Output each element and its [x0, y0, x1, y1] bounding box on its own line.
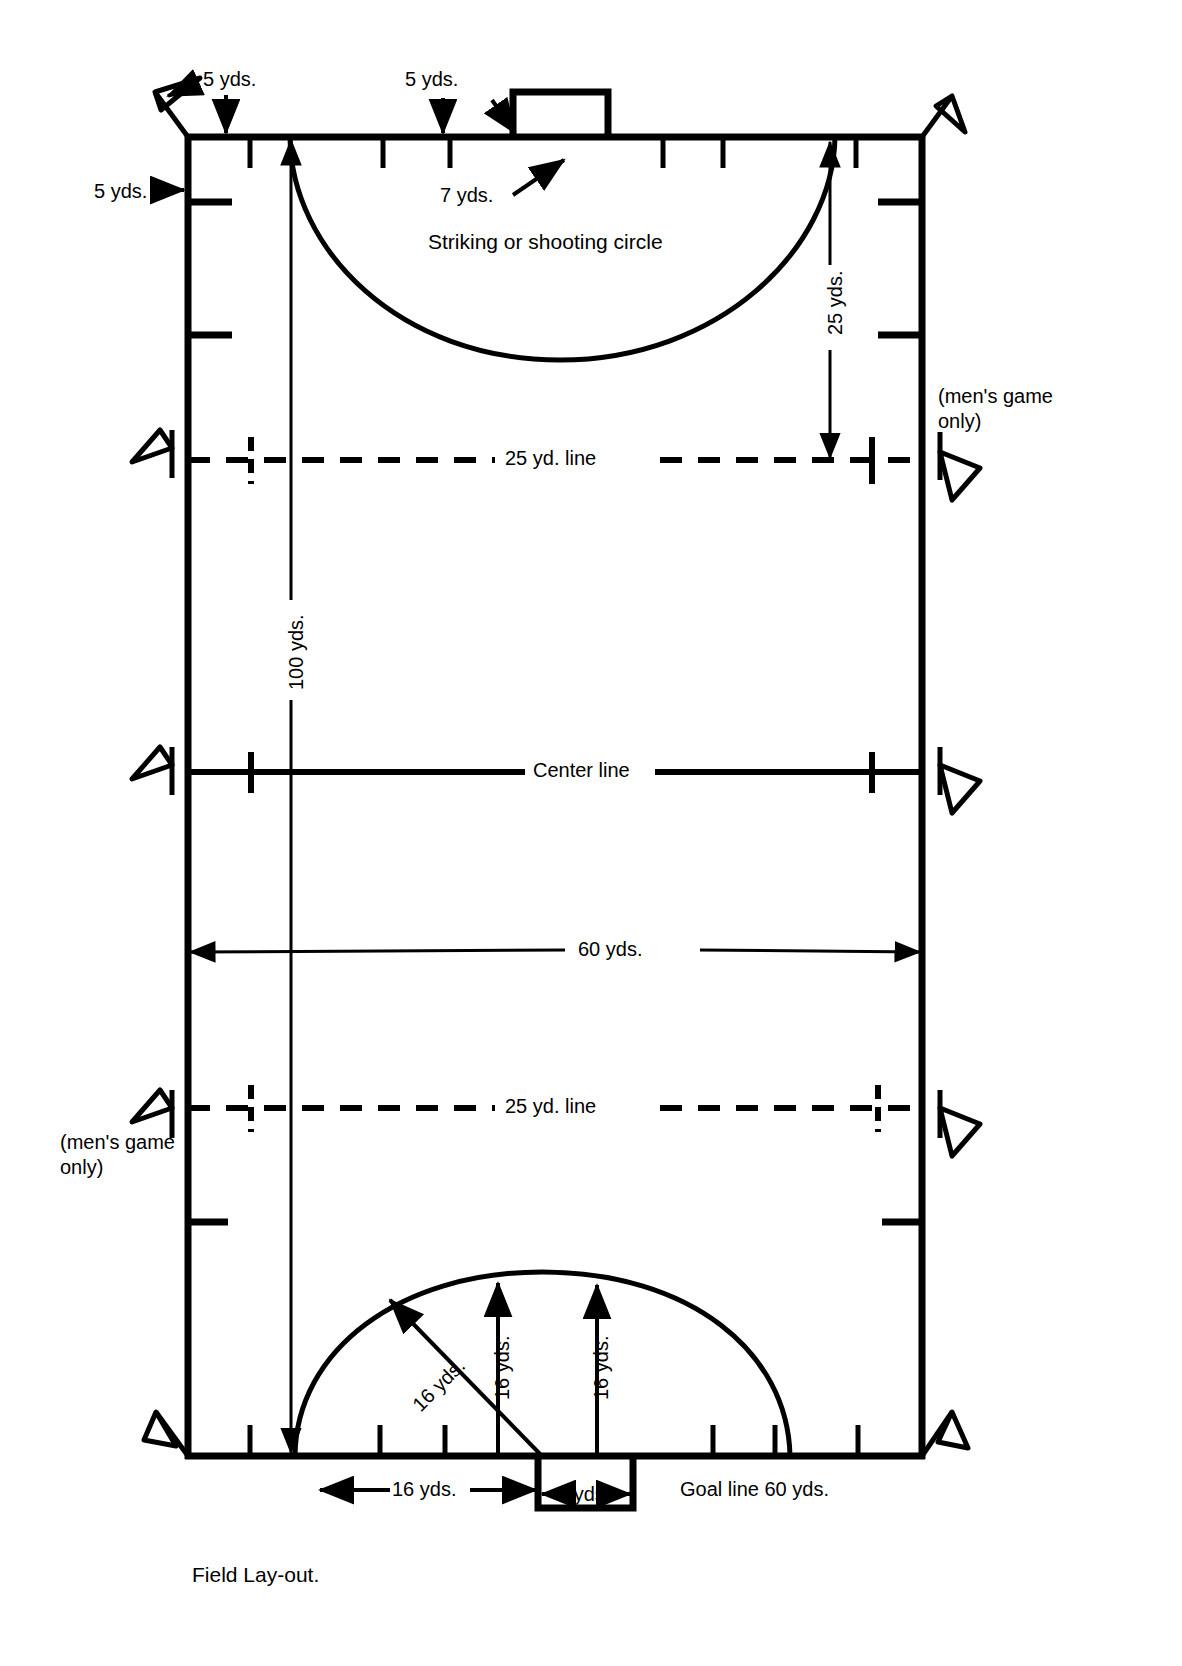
label-25-yd-line-top: 25 yd. line	[505, 447, 596, 470]
dimension-60-yards-width	[190, 950, 920, 952]
label-100-yards: 100 yds.	[285, 614, 308, 690]
label-mens-game-only-right-line2: only)	[938, 409, 1053, 434]
field-boundary	[185, 134, 925, 1459]
label-25-yd-line-bottom: 25 yd. line	[505, 1095, 596, 1118]
label-mens-game-only-right: (men's game only)	[938, 384, 1053, 434]
flag-25yd-right-lower	[940, 1090, 980, 1156]
flag-25yd-left-upper	[132, 430, 172, 478]
label-mens-game-only-left-line2: only)	[60, 1155, 175, 1180]
label-16-yards-vertical-left: 16 yds.	[491, 1336, 514, 1400]
label-5yds-top-middle: 5 yds.	[405, 68, 458, 91]
label-16-yards-baseline: 16 yds.	[392, 1478, 456, 1501]
corner-flag-bottom-left	[144, 1412, 188, 1456]
label-60-yards-width: 60 yds.	[578, 938, 642, 961]
label-5yds-corner-flag: 5 yds.	[203, 68, 256, 91]
sideline-hash-marks	[188, 202, 922, 1222]
bottom-goal-line-hash-marks	[250, 1425, 858, 1456]
label-7-yards: 7 yds.	[440, 184, 493, 207]
dimension-16-yards-radius	[390, 1300, 541, 1455]
label-mens-game-only-right-line1: (men's game	[938, 384, 1053, 409]
label-16-yards-vertical-right: 16 yds.	[590, 1336, 613, 1400]
label-4-yards-goal: 4 yds.	[557, 1483, 610, 1506]
bottom-shooting-circle	[295, 1272, 790, 1456]
label-center-line: Center line	[533, 759, 630, 782]
corner-flag-bottom-right	[922, 1412, 968, 1456]
label-5yds-sideline: 5 yds.	[94, 180, 147, 203]
flag-centerline-right	[940, 747, 980, 813]
top-goal	[513, 92, 608, 137]
label-mens-game-only-left: (men's game only)	[60, 1130, 175, 1180]
goals	[513, 92, 633, 1508]
label-25-yards-vertical: 25 yds.	[824, 271, 847, 335]
flag-25yd-right-upper	[940, 432, 980, 500]
label-striking-shooting-circle: Striking or shooting circle	[428, 230, 663, 254]
label-mens-game-only-left-line1: (men's game	[60, 1130, 175, 1155]
top-goal-line-hash-marks	[250, 137, 856, 168]
figure-caption: Field Lay-out.	[192, 1563, 319, 1587]
corner-flag-top-right	[922, 96, 965, 137]
twenty-five-yard-lines	[188, 437, 922, 1132]
label-goal-line-60-yards: Goal line 60 yds.	[680, 1478, 829, 1501]
flag-centerline-left	[132, 747, 172, 795]
shooting-circles	[290, 137, 835, 1456]
arrow-7-yards	[513, 160, 564, 195]
